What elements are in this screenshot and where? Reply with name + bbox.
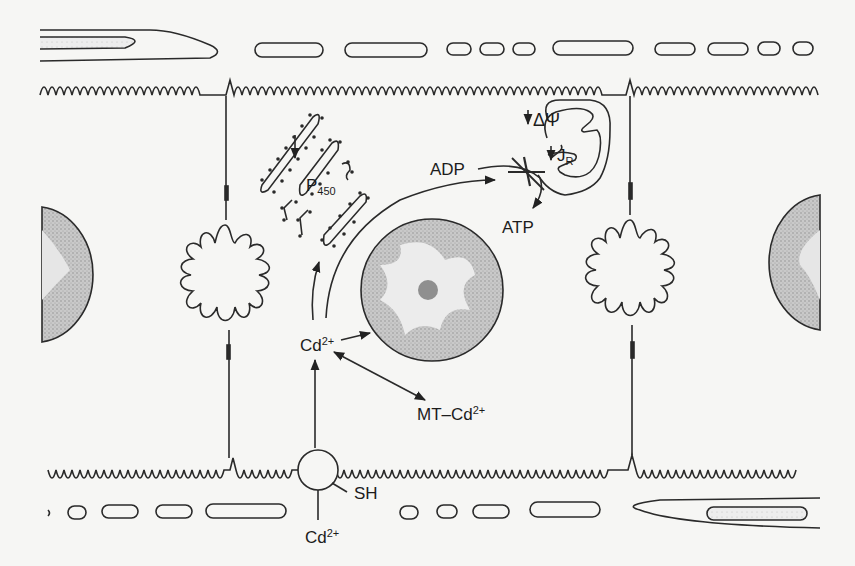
cd-to-nucleus-arrow	[341, 333, 370, 340]
cd-extracellular-label: Cd2+	[305, 528, 339, 546]
adp-label: ADP	[430, 161, 465, 178]
jr-sub: R	[566, 155, 574, 167]
atp-label: ATP	[502, 219, 534, 236]
basolateral-membrane	[48, 455, 796, 478]
nucleus	[361, 219, 503, 361]
lateral-junction-right	[629, 96, 634, 455]
cd-to-er-arrow	[312, 262, 319, 320]
cd-mt-binding-arrow	[334, 352, 425, 400]
cd-cytosol-main: Cd	[300, 336, 322, 355]
membrane-transporter	[298, 450, 347, 520]
delta-psi-label: ΔΨ	[533, 111, 560, 129]
mt-cd-main: MT–Cd	[417, 405, 473, 424]
capillary-bottom	[48, 498, 820, 528]
sh-label: SH	[354, 485, 378, 502]
cd-extracellular-main: Cd	[305, 528, 327, 547]
cd-extracellular-sup: 2+	[327, 527, 340, 539]
mt-cd-label: MT–Cd2+	[417, 405, 485, 423]
cd-cytosol-sup: 2+	[322, 335, 335, 347]
desmosome-right	[586, 220, 675, 316]
apical-membrane	[40, 80, 818, 95]
cd-cytosol-label: Cd2+	[300, 336, 334, 354]
p450-sub: 450	[317, 185, 335, 197]
desmosome-left	[181, 225, 270, 321]
p450-main: P	[306, 176, 317, 195]
p450-label: P450	[306, 177, 336, 197]
mt-cd-sup: 2+	[473, 404, 486, 416]
lateral-junction-left	[225, 96, 230, 458]
jr-main: J	[557, 146, 566, 165]
cell-diagram	[0, 0, 855, 566]
capillary-top	[40, 30, 813, 61]
jr-label: JR	[557, 147, 573, 167]
